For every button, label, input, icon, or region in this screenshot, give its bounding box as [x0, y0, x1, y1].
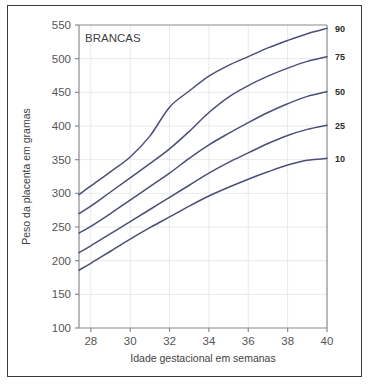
y-tick-label: 350 — [52, 154, 71, 166]
y-tick-label: 200 — [52, 255, 71, 267]
x-axis-title: Idade gestacional em semanas — [130, 352, 275, 364]
y-tick-label: 450 — [52, 86, 71, 98]
percentile-label-p25: 25 — [335, 121, 345, 131]
placenta-weight-percentile-chart: 100150200250300350400450500550 283032343… — [8, 6, 363, 378]
y-tick-label: 100 — [52, 322, 71, 334]
percentile-curve-p90 — [79, 28, 327, 194]
figure-panel: 100150200250300350400450500550 283032343… — [7, 5, 362, 377]
x-tick-label: 30 — [124, 335, 137, 347]
percentile-label-p10: 10 — [335, 154, 345, 164]
x-tick-label: 38 — [281, 335, 294, 347]
x-tick-label: 36 — [242, 335, 255, 347]
y-tick-label: 300 — [52, 187, 71, 199]
x-tick-label: 34 — [203, 335, 216, 347]
percentile-curve-p50 — [79, 92, 327, 233]
x-tick-label: 28 — [84, 335, 97, 347]
y-axis-ticks: 100150200250300350400450500550 — [52, 19, 79, 334]
x-tick-label: 32 — [163, 335, 176, 347]
percentile-curves — [79, 28, 327, 270]
percentile-label-p50: 50 — [335, 87, 345, 97]
chart-title: BRANCAS — [85, 32, 141, 44]
chart-container: 100150200250300350400450500550 283032343… — [8, 6, 363, 378]
y-tick-label: 250 — [52, 221, 71, 233]
y-axis-title: Peso da placenta em gramas — [20, 108, 32, 245]
x-tick-label: 40 — [321, 335, 334, 347]
y-tick-label: 400 — [52, 120, 71, 132]
y-tick-label: 550 — [52, 19, 71, 31]
percentile-labels: 9075502510 — [335, 24, 345, 164]
y-tick-label: 500 — [52, 53, 71, 65]
percentile-curve-p25 — [79, 125, 327, 252]
percentile-label-p90: 90 — [335, 24, 345, 34]
x-axis-ticks: 28303234363840 — [84, 328, 333, 347]
percentile-label-p75: 75 — [335, 52, 345, 62]
percentile-curve-p10 — [79, 158, 327, 270]
y-tick-label: 150 — [52, 288, 71, 300]
